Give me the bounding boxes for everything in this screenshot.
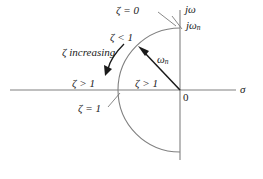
s-plane-diagram — [0, 0, 263, 179]
label-zeta-increasing: ζ increasing — [62, 47, 115, 58]
label-zeta-greater-one-left: ζ > 1 — [72, 78, 95, 89]
label-sigma-axis: σ — [240, 84, 245, 95]
zeta-zero-leader-line — [158, 12, 176, 26]
figure-canvas: ζ = 0 jω jωn ζ < 1 ζ increasing ωn ζ > 1… — [0, 0, 263, 179]
label-omega-n-vector: ωn — [157, 54, 169, 66]
label-zeta-zero: ζ = 0 — [116, 5, 139, 16]
label-j-omega-n: jωn — [186, 20, 201, 32]
label-zeta-less-than-one: ζ < 1 — [110, 32, 133, 43]
label-zeta-greater-one-right: ζ > 1 — [135, 78, 158, 89]
label-j-omega-axis: jω — [185, 4, 196, 15]
label-origin: 0 — [183, 92, 189, 103]
label-zeta-equals-one: ζ = 1 — [78, 103, 101, 114]
